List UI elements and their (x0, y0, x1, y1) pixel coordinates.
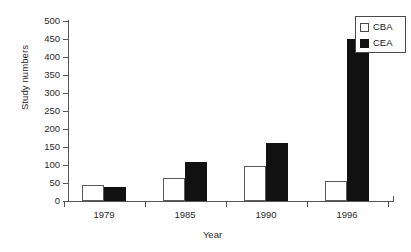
y-axis-title: Study numbers (19, 18, 30, 138)
y-axis-tick (63, 111, 68, 112)
x-axis-separator-tick (307, 202, 308, 207)
legend-label-cea: CEA (373, 38, 393, 48)
x-axis-end-cap (393, 196, 394, 202)
y-axis-line (68, 20, 69, 202)
x-axis-separator-tick (388, 202, 389, 207)
y-axis-tick-label: 500 (32, 16, 60, 26)
y-axis-tick (63, 147, 68, 148)
legend-label-cba: CBA (373, 22, 393, 32)
y-axis-tick-label: 50 (32, 178, 60, 188)
y-axis-tick-label: 300 (32, 88, 60, 98)
x-axis-tick-label: 1990 (236, 209, 296, 220)
bar-chart: Study numbers 05010015020025030035040045… (0, 0, 411, 252)
x-axis-line (68, 201, 393, 202)
x-axis-title: Year (0, 229, 411, 240)
y-axis-tick-label: 450 (32, 34, 60, 44)
legend-swatch-cea-icon (360, 39, 369, 48)
bar-cba-1996 (325, 181, 347, 201)
bar-cea-1985 (185, 162, 207, 201)
bar-cba-1990 (244, 166, 266, 201)
bar-cba-1979 (82, 185, 104, 201)
bar-cea-1996 (347, 39, 369, 201)
bar-cba-1985 (163, 178, 185, 201)
y-axis-tick (63, 165, 68, 166)
y-axis-tick-label: 250 (32, 106, 60, 116)
x-axis-separator-tick (226, 202, 227, 207)
y-axis-tick (63, 21, 68, 22)
y-axis-tick-label: 100 (32, 160, 60, 170)
y-axis-tick-label: 350 (32, 70, 60, 80)
y-axis-tick-label: 0 (32, 196, 60, 206)
x-axis-tick-label: 1979 (74, 209, 134, 220)
x-axis-tick-label: 1985 (155, 209, 215, 220)
x-axis-tick-label: 1996 (317, 209, 377, 220)
y-axis-tick (63, 183, 68, 184)
x-axis-separator-tick (145, 202, 146, 207)
legend-swatch-cba-icon (360, 23, 369, 32)
x-axis-separator-tick (64, 202, 65, 207)
x-axis-title-text: Year (203, 229, 222, 240)
y-axis-tick (63, 129, 68, 130)
y-axis-tick-label: 400 (32, 52, 60, 62)
y-axis-tick (63, 75, 68, 76)
legend-item-cea: CEA (360, 37, 393, 49)
bar-cea-1990 (266, 143, 288, 201)
y-axis-tick-label: 150 (32, 142, 60, 152)
y-axis-tick-label: 200 (32, 124, 60, 134)
y-axis-tick (63, 93, 68, 94)
legend-item-cba: CBA (360, 21, 393, 33)
y-axis-tick (63, 39, 68, 40)
chart-legend: CBA CEA (355, 16, 406, 53)
y-axis-tick (63, 57, 68, 58)
bar-cea-1979 (104, 187, 126, 201)
